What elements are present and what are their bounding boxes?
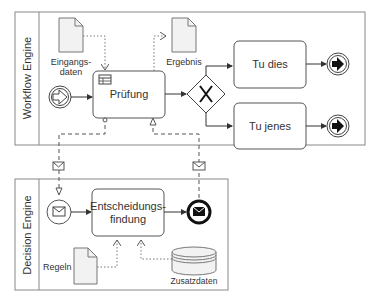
message-end-event[interactable] xyxy=(188,201,210,223)
zusatzdaten-label: Zusatzdaten xyxy=(171,276,218,286)
end-event-2[interactable] xyxy=(327,115,349,137)
task-tu-dies-label: Tu dies xyxy=(252,58,288,70)
task-entscheidungsfindung[interactable]: Entscheidungs- findung xyxy=(90,189,166,236)
task-tu-jenes[interactable]: Tu jenes xyxy=(234,103,306,149)
ergebnis-label: Ergebnis xyxy=(166,57,202,67)
eingangsdaten-label-2: daten xyxy=(60,67,83,77)
task-pruefung-label: Prüfung xyxy=(110,88,149,100)
task-entscheidung-label-2: findung xyxy=(110,213,146,225)
pool-label-decision: Decision Engine xyxy=(21,195,33,275)
envelope-icon xyxy=(53,162,64,170)
envelope-filled-icon xyxy=(193,207,205,216)
datastore-zusatzdaten[interactable]: Zusatzdaten xyxy=(171,247,218,286)
pool-label-workflow: Workflow Engine xyxy=(21,37,33,119)
business-rule-icon xyxy=(99,75,111,84)
envelope-icon xyxy=(193,162,205,170)
task-tu-jenes-label: Tu jenes xyxy=(249,120,291,132)
message-start-event[interactable] xyxy=(47,200,71,224)
bpmn-diagram: Workflow Engine Decision Engine Eingangs… xyxy=(0,0,374,300)
task-pruefung[interactable]: Prüfung xyxy=(93,71,165,118)
envelope-icon xyxy=(53,207,65,216)
start-event[interactable] xyxy=(49,86,71,108)
eingangsdaten-label-1: Eingangs- xyxy=(51,57,92,67)
message-flow-origin xyxy=(103,118,107,122)
task-entscheidung-label-1: Entscheidungs- xyxy=(90,200,166,212)
end-event-1[interactable] xyxy=(327,53,349,75)
regeln-label: Regeln xyxy=(43,262,72,272)
task-tu-dies[interactable]: Tu dies xyxy=(234,41,306,88)
